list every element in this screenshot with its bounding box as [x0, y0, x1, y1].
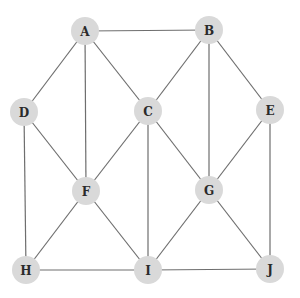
- node-d: D: [10, 98, 38, 126]
- edge-f-h: [26, 191, 86, 270]
- node-label: F: [82, 185, 91, 199]
- edge-f-i: [86, 191, 148, 270]
- nodes-layer: ABCDEFGHIJ: [10, 16, 284, 284]
- node-label: D: [19, 106, 29, 120]
- edge-d-f: [24, 112, 86, 191]
- edge-a-c: [85, 31, 148, 111]
- node-c: C: [134, 97, 162, 125]
- node-g: G: [195, 176, 223, 204]
- node-e: E: [256, 96, 284, 124]
- edge-b-c: [148, 30, 209, 111]
- edge-a-f: [85, 31, 86, 191]
- edge-c-f: [86, 111, 148, 191]
- edge-b-e: [209, 30, 270, 110]
- node-i: I: [134, 256, 162, 284]
- node-label: J: [266, 263, 273, 277]
- edges-layer: [24, 30, 270, 270]
- edge-a-d: [24, 31, 85, 112]
- edge-g-i: [148, 190, 209, 270]
- node-label: G: [204, 184, 214, 198]
- node-a: A: [71, 17, 99, 45]
- edge-g-j: [209, 190, 270, 269]
- graph-diagram: ABCDEFGHIJ: [0, 0, 300, 298]
- node-label: A: [79, 25, 90, 39]
- edge-i-j: [148, 269, 270, 270]
- edge-a-b: [85, 30, 209, 31]
- node-label: E: [265, 104, 274, 118]
- node-h: H: [12, 256, 40, 284]
- edge-e-g: [209, 110, 270, 190]
- node-j: J: [256, 255, 284, 283]
- node-label: B: [204, 24, 214, 38]
- node-label: H: [20, 264, 31, 278]
- node-f: F: [72, 177, 100, 205]
- node-b: B: [195, 16, 223, 44]
- node-label: I: [145, 264, 151, 278]
- node-label: C: [143, 105, 153, 119]
- edge-c-g: [148, 111, 209, 190]
- edge-d-h: [24, 112, 26, 270]
